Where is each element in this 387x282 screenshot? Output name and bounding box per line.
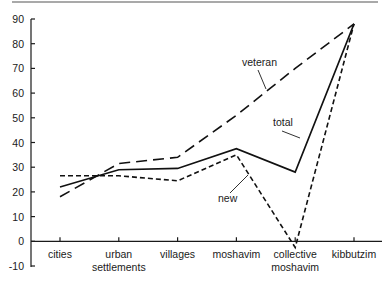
x-category-label: kibbutzim	[332, 248, 377, 260]
x-category-label: moshavim	[212, 248, 260, 260]
y-axis: -100102030405060708090	[9, 13, 35, 272]
x-category-label: urban	[105, 248, 132, 260]
series-line-veteran	[60, 24, 354, 197]
y-tick-label: 90	[12, 13, 24, 25]
y-tick-label: -10	[9, 260, 24, 272]
y-tick-label: 60	[12, 87, 24, 99]
annotation-label-total: total	[273, 116, 293, 128]
x-axis: citiesurbansettlementsvillagesmoshavimco…	[31, 237, 382, 273]
y-tick-label: 10	[12, 211, 24, 223]
y-tick-label: 80	[12, 38, 24, 50]
y-tick-label: 30	[12, 161, 24, 173]
annotation-label-veteran: veteran	[242, 56, 277, 68]
x-category-label: cities	[48, 248, 72, 260]
annotation-layer: veterantotalnew	[218, 56, 300, 204]
y-tick-label: 40	[12, 137, 24, 149]
x-category-label-line2: settlements	[92, 261, 146, 273]
y-tick-label: 20	[12, 186, 24, 198]
y-tick-label: 70	[12, 62, 24, 74]
x-category-label-line2: moshavim	[271, 261, 319, 273]
series-line-total	[60, 24, 354, 187]
series-layer	[60, 24, 354, 248]
annotation-label-new: new	[218, 192, 238, 204]
y-tick-label: 50	[12, 112, 24, 124]
annotation-leader-veteran	[258, 70, 266, 89]
line-chart: -100102030405060708090 citiesurbansettle…	[0, 0, 387, 282]
annotation-leader-total	[282, 131, 300, 138]
x-category-label: collective	[274, 248, 317, 260]
y-tick-label: 0	[18, 235, 24, 247]
x-category-label: villages	[160, 248, 195, 260]
annotation-leader-new	[230, 175, 248, 193]
